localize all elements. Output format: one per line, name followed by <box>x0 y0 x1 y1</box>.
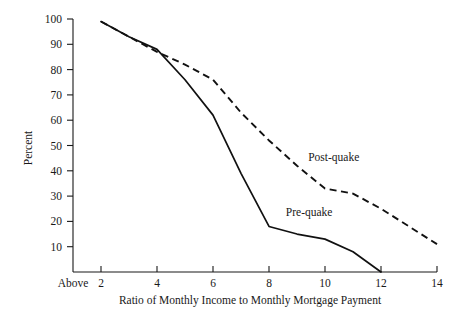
series-line-pre-quake <box>101 22 381 272</box>
x-tick-label: 4 <box>154 277 160 289</box>
y-tick-label: 50 <box>51 140 63 152</box>
series-annotation-post-quake: Post-quake <box>308 151 359 164</box>
x-axis: Above2468101214 <box>58 266 443 289</box>
y-tick-label: 80 <box>51 64 63 76</box>
line-chart: 102030405060708090100 Above2468101214 Po… <box>0 0 450 323</box>
y-tick-label: 90 <box>51 38 63 50</box>
x-axis-ticks: Above2468101214 <box>58 266 443 289</box>
y-axis-title: Percent <box>22 130 34 165</box>
y-tick-label: 70 <box>51 89 63 101</box>
y-tick-label: 100 <box>45 13 63 25</box>
y-tick-label: 30 <box>51 190 63 202</box>
y-axis-ticks: 102030405060708090100 <box>45 13 73 253</box>
y-axis: 102030405060708090100 <box>45 13 73 272</box>
x-tick-label: 12 <box>375 277 387 289</box>
x-axis-title: Ratio of Monthly Income to Monthly Mortg… <box>119 294 382 307</box>
series-annotation-pre-quake: Pre-quake <box>286 206 333 219</box>
x-tick-label: 10 <box>319 277 331 289</box>
y-tick-label: 10 <box>51 241 63 253</box>
series-group <box>101 22 437 272</box>
x-tick-label: 14 <box>431 277 443 289</box>
x-tick-label: 8 <box>266 277 272 289</box>
y-tick-label: 40 <box>51 165 63 177</box>
series-line-post-quake <box>101 22 437 245</box>
y-tick-label: 20 <box>51 215 63 227</box>
x-tick-label: Above <box>58 277 89 289</box>
y-tick-label: 60 <box>51 114 63 126</box>
x-tick-label: 6 <box>210 277 216 289</box>
x-tick-label: 2 <box>98 277 104 289</box>
series-annotations: Post-quakePre-quake <box>286 151 360 220</box>
chart-container: 102030405060708090100 Above2468101214 Po… <box>0 0 450 323</box>
